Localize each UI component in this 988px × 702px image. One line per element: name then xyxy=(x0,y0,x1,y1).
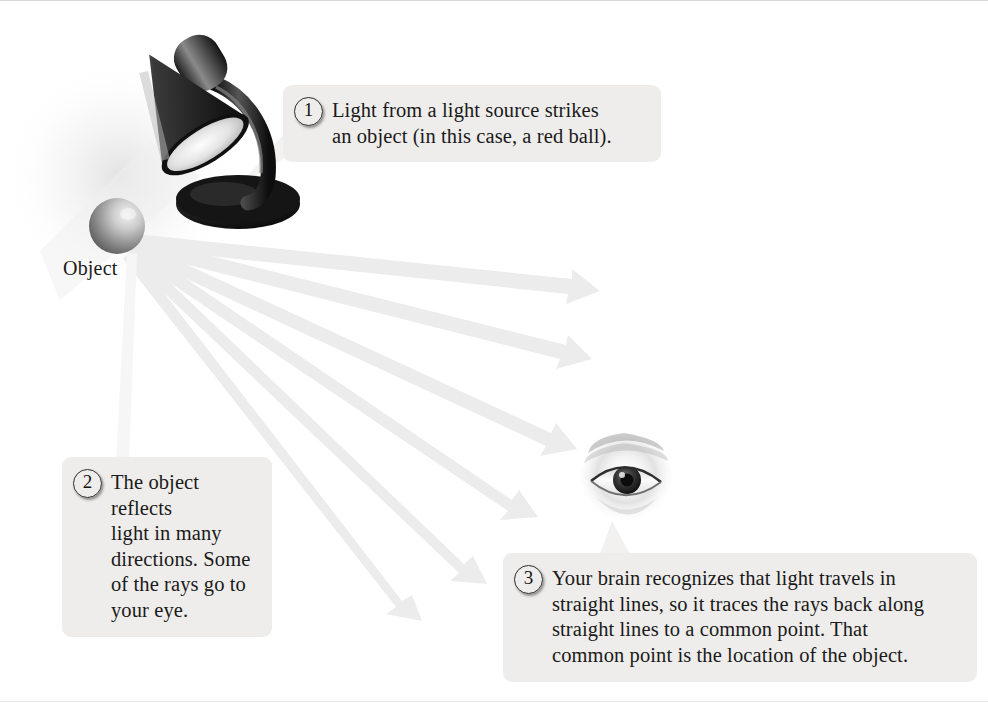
physics-light-diagram: Object 1 Light from a light source strik… xyxy=(0,0,988,702)
callout-1-text: Light from a light source strikes an obj… xyxy=(332,97,612,149)
callout-3: 3 Your brain recognizes that light trave… xyxy=(503,553,977,682)
callout-2: 2 The object reflects light in many dire… xyxy=(62,457,272,637)
human-eye xyxy=(580,433,672,523)
callout-pointers xyxy=(238,113,630,554)
red-ball-object xyxy=(89,198,145,254)
callout-3-text: Your brain recognizes that light travels… xyxy=(552,565,924,668)
callout-1-number: 1 xyxy=(294,97,323,126)
callout-2-number: 2 xyxy=(73,469,102,498)
callout-3-number: 3 xyxy=(514,565,543,594)
object-label: Object xyxy=(63,257,118,280)
callout-1: 1 Light from a light source strikes an o… xyxy=(283,85,661,162)
callout-2-text: The object reflects light in many direct… xyxy=(111,469,260,623)
